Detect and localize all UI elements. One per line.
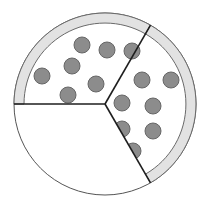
topping xyxy=(145,98,161,114)
topping xyxy=(145,123,161,139)
topping xyxy=(88,76,104,92)
pizza-diagram xyxy=(0,0,206,213)
topping xyxy=(34,68,50,84)
topping xyxy=(134,72,150,88)
topping xyxy=(163,72,179,88)
topping xyxy=(60,87,76,103)
topping xyxy=(64,58,80,74)
topping xyxy=(74,37,90,53)
topping xyxy=(99,42,115,58)
topping xyxy=(114,95,130,111)
